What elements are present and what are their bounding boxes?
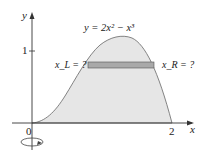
region-under-curve [32, 36, 172, 123]
equation-label: y = 2x² − x³ [83, 22, 135, 33]
right-endpoint-label: x_R = ? [161, 59, 194, 70]
x-axis-label: x [189, 123, 195, 135]
x-tick-label: 2 [169, 125, 175, 137]
y-axis-arrow-icon [30, 12, 35, 19]
origin-label: 0 [26, 125, 32, 137]
left-endpoint-label: x_L = ? [54, 59, 87, 70]
diagram-canvas: y x 1 0 2 y = 2x² − x³ x_L = ? x_R = ? [0, 0, 204, 162]
y-tick-label: 1 [22, 44, 28, 56]
horizontal-strip [88, 62, 154, 68]
y-axis-label: y [21, 9, 27, 21]
